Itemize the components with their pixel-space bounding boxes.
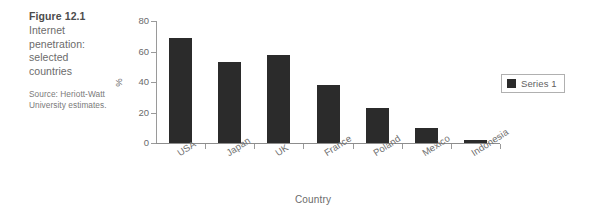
figure-title: Internet penetration: selected countries bbox=[29, 24, 109, 78]
bar-france bbox=[317, 85, 340, 143]
y-tick-mark bbox=[151, 52, 156, 53]
x-label-uk: UK bbox=[273, 142, 290, 159]
bar-usa bbox=[169, 38, 192, 143]
y-axis-tick-labels: 020406080 bbox=[125, 6, 149, 206]
bar-japan bbox=[218, 62, 241, 143]
figure-number: Figure 12.1 bbox=[29, 10, 109, 23]
bar-chart: % 020406080 USAJapanUKFrancePolandMexico… bbox=[115, 6, 515, 206]
figure-caption: Figure 12.1 Internet penetration: select… bbox=[29, 10, 109, 111]
y-axis-title: % bbox=[113, 78, 124, 86]
x-tick-mark bbox=[254, 144, 255, 149]
x-tick-mark bbox=[500, 144, 501, 149]
y-tick-label: 0 bbox=[127, 138, 149, 147]
y-tick-mark bbox=[151, 82, 156, 83]
y-tick-label: 40 bbox=[127, 77, 149, 86]
bar-uk bbox=[267, 55, 290, 143]
y-tick-mark bbox=[151, 143, 156, 144]
bars-layer bbox=[156, 21, 500, 143]
chart-legend: Series 1 bbox=[501, 74, 565, 93]
y-tick-mark bbox=[151, 113, 156, 114]
x-tick-mark bbox=[303, 144, 304, 149]
y-tick-label: 20 bbox=[127, 108, 149, 117]
y-tick-label: 60 bbox=[127, 47, 149, 56]
x-tick-mark bbox=[402, 144, 403, 149]
x-tick-mark bbox=[205, 144, 206, 149]
y-tick-mark bbox=[151, 21, 156, 22]
x-axis-category-labels: USAJapanUKFrancePolandMexicoIndonesia bbox=[156, 149, 500, 197]
legend-swatch-series-1 bbox=[507, 79, 516, 88]
x-axis-title: Country bbox=[295, 194, 331, 205]
x-tick-mark bbox=[353, 144, 354, 149]
x-tick-mark bbox=[451, 144, 452, 149]
figure-source: Source: Heriott-Watt University estimate… bbox=[29, 89, 109, 111]
y-tick-label: 80 bbox=[127, 16, 149, 25]
figure-container: Figure 12.1 Internet penetration: select… bbox=[0, 0, 596, 216]
legend-label-series-1: Series 1 bbox=[521, 78, 557, 89]
bar-poland bbox=[366, 108, 389, 143]
